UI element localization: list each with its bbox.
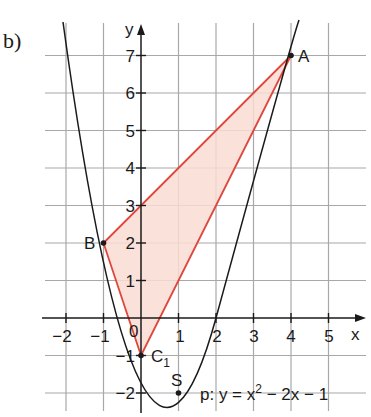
y-tick-label: 2 [126, 234, 135, 253]
point-c1 [138, 353, 144, 359]
y-tick-label: 4 [126, 159, 135, 178]
point-a [288, 53, 294, 59]
parabola-equation: p: y = x2 − 2x − 1 [200, 382, 328, 404]
x-tick-label: 3 [249, 327, 258, 346]
x-axis-arrow-icon [355, 314, 366, 322]
part-label: b) [3, 28, 21, 53]
point-s-label: S [171, 371, 182, 390]
y-tick-label: −2 [116, 384, 135, 403]
y-tick-label: 5 [126, 122, 135, 141]
x-tick-label: 4 [286, 327, 295, 346]
x-tick-labels: −2 −1 1 2 3 4 5 [52, 327, 333, 346]
y-axis-label: y [125, 20, 134, 39]
y-tick-label: −1 [116, 347, 135, 366]
y-axis-arrow-icon [137, 24, 145, 35]
origin-label: 0 [129, 322, 138, 341]
coordinate-diagram: b) y x −2 −1 1 2 3 4 5 7 6 5 4 3 2 1 −1 … [0, 0, 371, 417]
y-tick-label: 6 [126, 84, 135, 103]
point-s [176, 390, 182, 396]
point-b-label: B [84, 234, 95, 253]
y-tick-label: 3 [126, 197, 135, 216]
x-tick-label: 5 [324, 327, 333, 346]
x-tick-label: −1 [90, 327, 109, 346]
point-a-label: A [298, 47, 310, 66]
y-tick-label: 1 [126, 272, 135, 291]
point-c1-label: C1 [151, 347, 170, 370]
x-tick-label: 1 [175, 327, 184, 346]
point-b [101, 240, 107, 246]
x-axis-label: x [351, 325, 360, 344]
x-tick-label: −2 [52, 327, 71, 346]
x-tick-label: 2 [212, 327, 221, 346]
y-tick-label: 7 [126, 47, 135, 66]
